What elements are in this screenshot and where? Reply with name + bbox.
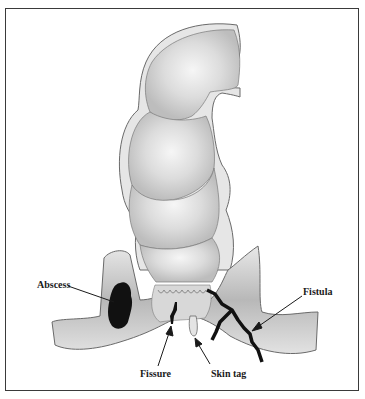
label-skin-tag: Skin tag: [211, 368, 246, 379]
fissure-arrow: [158, 326, 173, 366]
label-fistula: Fistula: [303, 286, 332, 297]
rectum-colon: [119, 24, 240, 282]
label-fissure: Fissure: [140, 368, 171, 379]
label-abscess: Abscess: [37, 279, 70, 290]
anorectal-diagram: [0, 0, 365, 399]
skin-tag-arrow: [195, 338, 210, 364]
